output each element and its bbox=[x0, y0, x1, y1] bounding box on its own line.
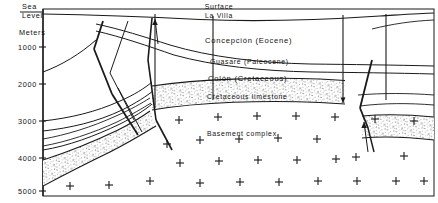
cross-section-drawing: Sea Level Meters 1000 2000 3000 4000 500… bbox=[0, 0, 438, 203]
axis-tick-5000: 5000 bbox=[18, 187, 37, 196]
axis-tick-4000: 4000 bbox=[18, 154, 37, 163]
unit-label-guasare: Guasare (Paleocene) bbox=[210, 58, 289, 66]
unit-label-cretaceous-limestone: Cretaceous limestone bbox=[207, 93, 288, 100]
unit-label-colon: Colón (Cretaceous) bbox=[208, 74, 287, 83]
axis-unit-label: Meters bbox=[19, 28, 46, 37]
sea-level-label-line2: Level bbox=[22, 11, 43, 20]
unit-label-concepcion: Concepción (Eocene) bbox=[205, 36, 292, 45]
axis-tick-3000: 3000 bbox=[18, 117, 37, 126]
unit-label-basement-complex: Basement complex bbox=[207, 130, 277, 138]
depth-axis bbox=[20, 9, 46, 196]
surface-label: Surface bbox=[205, 3, 234, 10]
axis-tick-1000: 1000 bbox=[18, 43, 37, 52]
geologic-cross-section-figure: Sea Level Meters 1000 2000 3000 4000 500… bbox=[0, 0, 438, 203]
axis-tick-2000: 2000 bbox=[18, 80, 37, 89]
axis-tick-labels: Sea Level Meters 1000 2000 3000 4000 500… bbox=[18, 2, 46, 196]
locality-label-la-villa: La Villa bbox=[205, 12, 233, 19]
